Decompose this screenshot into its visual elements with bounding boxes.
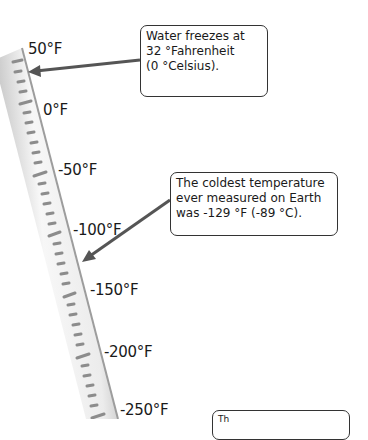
scale-label-50f: 50°F — [28, 42, 62, 57]
callout-partial-line-1: Th — [218, 412, 344, 427]
arrow-freezing — [28, 60, 140, 77]
scale-label-minus-200f: -200°F — [104, 345, 152, 360]
callout-coldest: The coldest temperature ever measured on… — [170, 172, 338, 236]
scale-label-minus-150f: -150°F — [90, 283, 138, 298]
callout-freezing-line-3: (0 °Celsius). — [146, 59, 262, 74]
scale-label-minus-250f: -250°F — [120, 403, 168, 418]
callout-partial-bottom: Th — [212, 410, 350, 440]
scale-label-minus-100f: -100°F — [73, 223, 121, 238]
scale-label-0f: 0°F — [43, 103, 68, 118]
callout-freezing-line-2: 32 °Fahrenheit — [146, 44, 262, 59]
callout-coldest-line-2: ever measured on Earth — [176, 191, 332, 206]
callout-freezing-line-1: Water freezes at — [146, 29, 262, 44]
callout-coldest-line-1: The coldest temperature — [176, 176, 332, 191]
callout-coldest-line-3: was -129 °F (-89 °C). — [176, 206, 332, 221]
scale-label-minus-50f: -50°F — [58, 163, 97, 178]
callout-freezing: Water freezes at 32 °Fahrenheit (0 °Cels… — [140, 25, 268, 97]
